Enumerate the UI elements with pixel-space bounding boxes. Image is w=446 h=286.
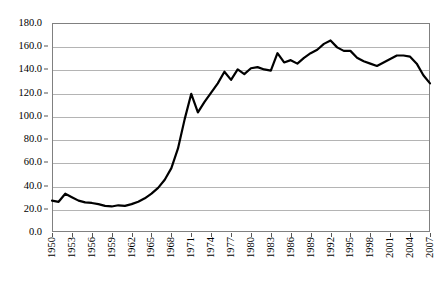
series-line-layer bbox=[52, 23, 430, 232]
x-tick-label: 1995 bbox=[345, 237, 356, 258]
y-tick-label: 180.0 bbox=[18, 18, 42, 29]
x-tick-label: 1980 bbox=[246, 237, 257, 258]
chart-title bbox=[0, 0, 446, 5]
x-tick-label: 1956 bbox=[87, 237, 98, 258]
x-tick-label: 1998 bbox=[365, 237, 376, 258]
x-tick-label: 1974 bbox=[206, 237, 217, 258]
y-tick-label: 40.0 bbox=[24, 180, 42, 191]
x-axis: 1950195319561959196219651968197119741977… bbox=[52, 233, 430, 286]
x-tick-label: 1968 bbox=[166, 237, 177, 258]
y-tick-mark bbox=[44, 139, 48, 140]
line-chart: 0.020.040.060.080.0100.0120.0140.0160.01… bbox=[0, 0, 446, 286]
y-tick-label: 140.0 bbox=[18, 64, 42, 75]
y-tick-mark bbox=[44, 92, 48, 93]
x-tick-label: 1983 bbox=[266, 237, 277, 258]
y-tick-mark bbox=[44, 115, 48, 116]
y-axis: 0.020.040.060.080.0100.0120.0140.0160.01… bbox=[0, 23, 48, 232]
y-tick-label: 160.0 bbox=[18, 41, 42, 52]
x-tick-label: 1977 bbox=[226, 237, 237, 258]
y-tick-label: 80.0 bbox=[24, 134, 42, 145]
x-tick-label: 1953 bbox=[67, 237, 78, 258]
x-tick-label: 2001 bbox=[385, 237, 396, 258]
y-tick-label: 0.0 bbox=[29, 227, 42, 238]
y-tick-label: 100.0 bbox=[18, 111, 42, 122]
x-tick-label: 2004 bbox=[405, 237, 416, 258]
x-tick-label: 1959 bbox=[107, 237, 118, 258]
y-tick-label: 120.0 bbox=[18, 87, 42, 98]
y-tick-mark bbox=[44, 208, 48, 209]
x-tick-label: 2007 bbox=[425, 237, 436, 258]
y-tick-label: 60.0 bbox=[24, 157, 42, 168]
x-tick-label: 1992 bbox=[326, 237, 337, 258]
y-tick-label: 20.0 bbox=[24, 204, 42, 215]
series-1-line bbox=[52, 40, 430, 206]
x-tick-label: 1962 bbox=[127, 237, 138, 258]
y-tick-mark bbox=[44, 69, 48, 70]
x-tick-label: 1989 bbox=[306, 237, 317, 258]
x-tick-label: 1986 bbox=[286, 237, 297, 258]
y-tick-mark bbox=[44, 162, 48, 163]
y-tick-mark bbox=[44, 185, 48, 186]
x-tick-label: 1950 bbox=[47, 237, 58, 258]
x-tick-label: 1971 bbox=[186, 237, 197, 258]
y-tick-mark bbox=[44, 46, 48, 47]
x-tick-label: 1965 bbox=[146, 237, 157, 258]
